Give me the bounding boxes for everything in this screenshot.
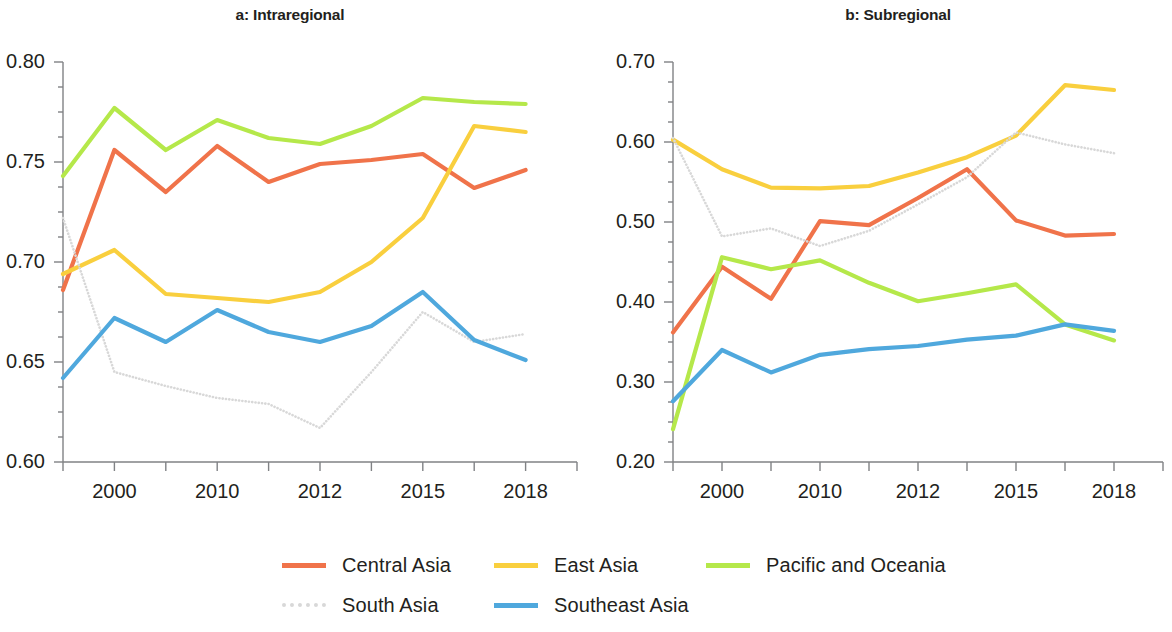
- y-tick-label: 0.70: [616, 50, 655, 72]
- y-tick-label: 0.50: [616, 210, 655, 232]
- legend-item-east-asia[interactable]: East Asia: [494, 545, 646, 585]
- legend-label: Pacific and Oceania: [766, 554, 946, 577]
- x-tick-label: 2000: [92, 480, 137, 502]
- y-tick-label: 0.60: [6, 450, 45, 472]
- x-tick-label: 2015: [994, 480, 1039, 502]
- legend-swatch-east-asia-icon: [494, 563, 538, 568]
- series-line-east-asia: [63, 126, 526, 302]
- legend-item-pacific[interactable]: Pacific and Oceania: [706, 545, 946, 585]
- x-tick-label: 2010: [798, 480, 843, 502]
- legend-label: South Asia: [342, 594, 439, 617]
- legend-label: Southeast Asia: [554, 594, 689, 617]
- legend-item-south-asia[interactable]: South Asia: [282, 585, 434, 625]
- legend-swatch-pacific-icon: [706, 563, 750, 568]
- y-tick-label: 0.20: [616, 450, 655, 472]
- panel-b-title: b: Subregional: [612, 6, 1172, 24]
- y-tick-label: 0.60: [616, 130, 655, 152]
- series-line-pacific-and-oceania: [673, 257, 1114, 429]
- series-line-east-asia: [673, 85, 1114, 188]
- panel-a-plot: 0.800.750.700.650.6020002010201220152018: [0, 0, 600, 520]
- chart-panel-a: a: Intraregional 0.800.750.700.650.60200…: [0, 0, 600, 520]
- panel-b-plot: 0.700.600.500.400.300.202000201020122015…: [600, 0, 1172, 520]
- legend-swatch-southeast-asia-icon: [494, 603, 538, 608]
- y-tick-label: 0.30: [616, 370, 655, 392]
- legend-swatch-south-asia-icon: [282, 603, 326, 607]
- series-line-southeast-asia: [673, 324, 1114, 401]
- y-tick-label: 0.80: [6, 50, 45, 72]
- y-tick-label: 0.40: [616, 290, 655, 312]
- x-tick-label: 2010: [195, 480, 240, 502]
- x-tick-label: 2018: [503, 480, 548, 502]
- series-line-southeast-asia: [63, 292, 526, 378]
- legend-item-central-asia[interactable]: Central Asia: [282, 545, 434, 585]
- legend-row: Central AsiaEast AsiaPacific and Oceania: [0, 545, 1172, 585]
- legend-label: East Asia: [554, 554, 638, 577]
- y-tick-label: 0.65: [6, 350, 45, 372]
- legend-label: Central Asia: [342, 554, 451, 577]
- legend-row: South AsiaSoutheast Asia: [0, 585, 1172, 625]
- chart-panel-b: b: Subregional 0.700.600.500.400.300.202…: [600, 0, 1172, 520]
- x-tick-label: 2018: [1092, 480, 1137, 502]
- panel-a-title: a: Intraregional: [0, 6, 590, 24]
- figure-root: a: Intraregional 0.800.750.700.650.60200…: [0, 0, 1172, 632]
- x-tick-label: 2012: [298, 480, 343, 502]
- chart-legend: Central AsiaEast AsiaPacific and Oceania…: [0, 545, 1172, 632]
- series-line-central-asia: [63, 146, 526, 290]
- x-tick-label: 2012: [896, 480, 941, 502]
- legend-swatch-central-asia-icon: [282, 563, 326, 568]
- y-tick-label: 0.75: [6, 150, 45, 172]
- y-tick-label: 0.70: [6, 250, 45, 272]
- x-tick-label: 2015: [401, 480, 446, 502]
- legend-item-southeast-asia[interactable]: Southeast Asia: [494, 585, 646, 625]
- x-tick-label: 2000: [700, 480, 745, 502]
